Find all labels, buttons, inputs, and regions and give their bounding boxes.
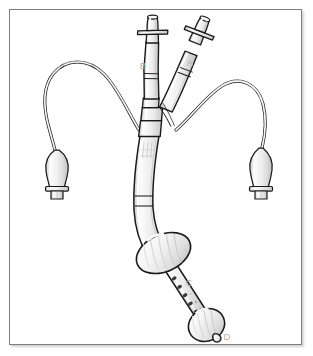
distal-tip	[213, 334, 221, 342]
pilot-tube-right	[176, 80, 265, 148]
label-c: C	[185, 277, 192, 288]
luer-connector-a	[181, 11, 220, 48]
label-b: B	[140, 60, 147, 71]
luer-connector-b	[138, 15, 168, 43]
label-d: D	[223, 331, 230, 342]
label-a: A	[187, 57, 194, 68]
pilot-balloon-right	[250, 148, 273, 199]
device-illustration: B A C D	[0, 0, 313, 356]
pilot-balloon-left	[46, 150, 69, 199]
figure-root: B A C D	[0, 0, 313, 356]
pilot-tube-left	[45, 61, 139, 150]
